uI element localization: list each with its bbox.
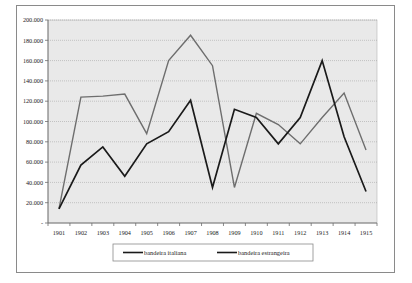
x-axis-tick-label: 1904 <box>119 229 131 236</box>
x-axis-tick-label: 1912 <box>294 229 306 236</box>
y-axis-tick-label: 80.000 <box>26 138 43 145</box>
x-axis-tick-label: 1901 <box>53 229 65 236</box>
legend-label-0: bandeira italiana <box>144 249 187 256</box>
y-axis-tick-label: 40.000 <box>26 179 43 186</box>
x-axis-tick-label: 1906 <box>162 229 174 236</box>
x-axis-tick-label: 1914 <box>338 229 350 236</box>
y-axis-tick-label: 180.000 <box>23 37 43 44</box>
x-axis-tick-label: 1905 <box>141 229 153 236</box>
x-axis-tick-label: 1911 <box>272 229 284 236</box>
line-chart: 200.000180.000160.000140.000120.000100.0… <box>17 6 396 274</box>
y-axis-tick-label: - <box>41 219 43 226</box>
x-axis-tick-label: 1902 <box>75 229 87 236</box>
y-axis-tick-label: 100.000 <box>23 118 43 125</box>
legend-label-1: bandeira estrangeira <box>238 249 290 256</box>
x-axis-tick-label: 1903 <box>97 229 109 236</box>
x-axis-tick-label: 1910 <box>250 229 262 236</box>
chart-plot-wrapper: 200.000180.000160.000140.000120.000100.0… <box>17 6 396 274</box>
y-axis-tick-label: 160.000 <box>23 57 43 64</box>
y-axis-tick-label: 60.000 <box>26 158 43 165</box>
x-axis-tick-label: 1915 <box>360 229 372 236</box>
y-axis-tick-label: 200.000 <box>23 16 43 23</box>
x-axis-tick-label: 1913 <box>316 229 328 236</box>
x-axis-tick-label: 1909 <box>228 229 240 236</box>
x-axis-tick-label: 1907 <box>184 229 196 236</box>
x-axis-tick-label: 1908 <box>206 229 218 236</box>
y-axis-tick-label: 20.000 <box>26 199 43 206</box>
chart-frame: 200.000180.000160.000140.000120.000100.0… <box>16 5 395 273</box>
y-axis-tick-label: 120.000 <box>23 97 43 104</box>
y-axis-tick-label: 140.000 <box>23 77 43 84</box>
